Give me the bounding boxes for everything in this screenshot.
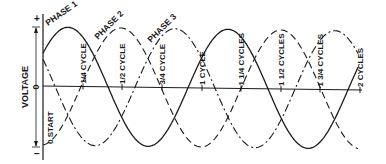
arrow-down-icon xyxy=(34,141,38,147)
cycle-label: 1/4 CYCLE xyxy=(79,42,88,83)
phase-2-label: PHASE 2 xyxy=(92,8,125,41)
voltage-label: VOLTAGE xyxy=(20,66,30,108)
cycle-label: 1 1/4 CYCLES xyxy=(237,32,246,85)
cycle-label: 0 START xyxy=(46,111,55,144)
cycle-label: 1 3/4 CYCLES xyxy=(316,33,325,86)
cycle-label: 3/4 CYCLE xyxy=(158,43,167,84)
phase-1-label: PHASE 1 xyxy=(43,0,79,28)
cycle-label: 1/2 CYCLE xyxy=(118,43,127,84)
three-phase-voltage-diagram: + − 0 VOLTAGE 0 START1/4 CYCLE1/2 CYCLE3… xyxy=(0,0,386,164)
zero-label: 0 xyxy=(31,84,41,89)
cycle-label: 1 1/2 CYCLES xyxy=(277,33,286,86)
arrow-up-icon xyxy=(34,27,38,33)
minus-label: − xyxy=(34,148,40,159)
plus-label: + xyxy=(34,13,40,24)
phase-3-label: PHASE 3 xyxy=(145,11,178,44)
